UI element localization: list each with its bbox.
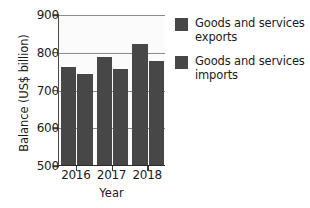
y-tick-label-800: 800 xyxy=(13,46,59,60)
legend-entry-imports: Goods and services imports xyxy=(175,55,308,82)
legend-label-exports-line2: exports xyxy=(195,30,237,44)
bar-2018-series-1 xyxy=(149,61,165,165)
x-axis-title: Year xyxy=(58,186,165,200)
y-tick-label-600: 600 xyxy=(13,121,59,135)
legend-label-exports: Goods and services exports xyxy=(195,17,305,44)
legend-label-imports: Goods and services imports xyxy=(195,55,305,82)
legend-swatch-exports-icon xyxy=(175,18,188,31)
y-tick-label-900: 900 xyxy=(13,8,59,22)
legend-label-imports-line1: Goods and services xyxy=(195,54,305,68)
x-tick-label-2018: 2018 xyxy=(132,168,161,182)
x-tick-label-2017: 2017 xyxy=(97,168,126,182)
legend: Goods and services exports Goods and ser… xyxy=(175,17,308,93)
bar-2017-series-1 xyxy=(113,69,129,165)
bar-chart: Balance (US$ billion) 500600700800900 20… xyxy=(0,0,310,208)
bar-2016-series-0 xyxy=(61,67,77,165)
legend-entry-exports: Goods and services exports xyxy=(175,17,308,44)
legend-label-imports-line2: imports xyxy=(195,68,238,82)
gridline-800 xyxy=(59,53,165,54)
x-tick-label-2016: 2016 xyxy=(61,168,90,182)
bar-2017-series-0 xyxy=(97,57,113,165)
gridline-900 xyxy=(59,15,165,16)
plot-area xyxy=(58,15,165,166)
bar-2018-series-0 xyxy=(132,44,148,165)
bar-2016-series-1 xyxy=(77,74,93,165)
legend-label-exports-line1: Goods and services xyxy=(195,16,305,30)
y-tick-label-500: 500 xyxy=(13,159,59,173)
y-tick-label-700: 700 xyxy=(13,84,59,98)
legend-swatch-imports-icon xyxy=(175,56,188,69)
